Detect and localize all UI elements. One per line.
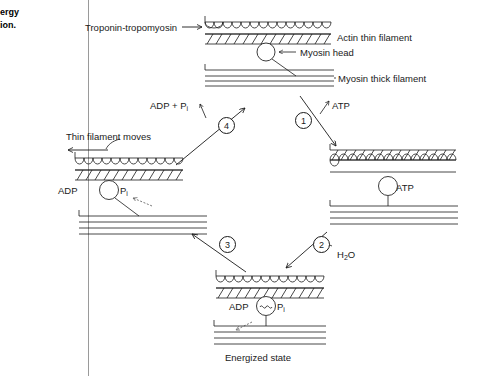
label-myosin-thick-filament: Myosin thick filament	[338, 73, 426, 84]
pi-left-subscript: i	[126, 190, 128, 197]
pi-bottom-subscript: i	[283, 306, 285, 313]
label-pi-left: Pi	[120, 185, 128, 199]
myosin-thick-filament-bottom	[214, 320, 326, 344]
label-adp-left: ADP	[58, 185, 78, 196]
tropomyosin-band-bottom	[216, 288, 324, 298]
label-water: H2O	[337, 249, 355, 263]
caption-energized-state: Energized state	[225, 352, 291, 363]
label-adp-plus-pi-release: ADP + Pi	[150, 100, 188, 114]
actin-globules-left	[75, 158, 183, 170]
step-number-3: 3	[219, 236, 236, 253]
myosin-head-top	[257, 43, 296, 76]
label-atp-step1: ATP	[332, 100, 350, 111]
step-number-2: 2	[313, 236, 330, 253]
label-adp-bottom: ADP	[229, 301, 249, 312]
actin-globules-bottom	[216, 276, 324, 288]
myosin-head-bottom-energized	[257, 297, 276, 327]
label-thin-filament-moves: Thin filament moves	[66, 131, 151, 142]
myosin-thick-filament-left	[79, 210, 207, 234]
label-myosin-head: Myosin head	[300, 47, 354, 58]
myosin-thick-filament-right	[330, 200, 458, 224]
diagram-canvas: ergy ion.	[0, 0, 502, 376]
pi-subscript: i	[187, 105, 189, 112]
label-troponin-tropomyosin: Troponin-tropomyosin	[85, 22, 177, 33]
tropomyosin-band-top	[205, 34, 331, 44]
state-right-atp-bound	[330, 144, 458, 224]
water-text: H	[337, 249, 344, 260]
state-left-power-stroke	[68, 139, 207, 234]
actin-globules-right	[330, 154, 456, 172]
myosin-thick-filament-top	[205, 64, 334, 86]
water-tail: O	[348, 249, 355, 260]
power-stroke-dashed-arrow	[133, 198, 152, 206]
adp-pi-text: ADP + P	[150, 100, 187, 111]
step-number-4: 4	[218, 117, 235, 134]
label-actin-thin-filament: Actin thin filament	[337, 32, 412, 43]
myosin-head-right	[379, 177, 398, 207]
tropomyosin-band-left	[75, 170, 183, 180]
label-atp-bound: ATP	[396, 182, 414, 193]
label-pi-bottom: Pi	[277, 301, 285, 315]
actin-globules-top	[205, 22, 331, 34]
step-number-1: 1	[295, 112, 312, 129]
